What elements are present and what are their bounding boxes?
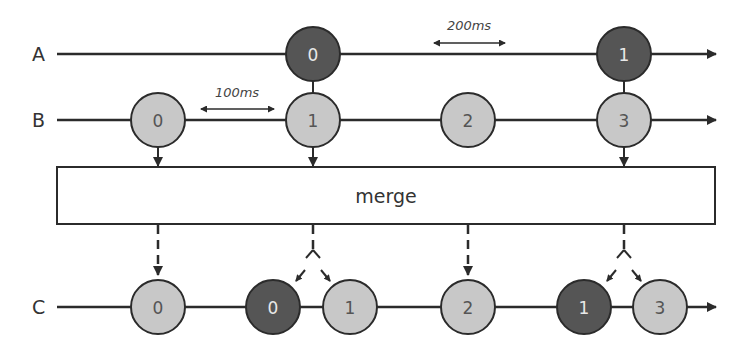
stream-b: B 0 1 2 3 [32, 93, 716, 166]
marble-b-0: 0 [131, 93, 185, 147]
merge-marble-diagram: A 0 1 200ms B 0 1 [0, 0, 749, 356]
svg-text:0: 0 [153, 111, 164, 131]
stream-c: C 0 0 1 2 1 3 [32, 280, 716, 334]
output-arrows [158, 225, 641, 281]
svg-text:1: 1 [308, 111, 319, 131]
marble-b-3: 3 [597, 93, 651, 147]
svg-text:3: 3 [655, 298, 666, 318]
svg-text:1: 1 [619, 45, 630, 65]
marble-c-2: 1 [323, 280, 377, 334]
svg-text:1: 1 [345, 298, 356, 318]
arrow-to-c-dark0 [296, 270, 305, 281]
interval-annotation-100ms: 100ms [201, 85, 274, 109]
arrow-to-c3 [632, 270, 641, 281]
operator-label: merge [355, 185, 416, 207]
split-right-624 [624, 250, 631, 258]
svg-text:0: 0 [308, 45, 319, 65]
marble-a-1: 1 [597, 27, 651, 81]
marble-c-0: 0 [131, 280, 185, 334]
operator-box: merge [57, 167, 715, 224]
svg-text:2: 2 [463, 298, 474, 318]
marble-a-0: 0 [286, 27, 340, 81]
split-right-313 [313, 250, 320, 258]
split-left-313 [306, 250, 313, 258]
split-left-624 [617, 250, 624, 258]
marble-c-1: 0 [246, 280, 300, 334]
marble-c-4: 1 [557, 280, 611, 334]
svg-text:3: 3 [619, 111, 630, 131]
marble-b-1: 1 [286, 93, 340, 147]
marble-b-2: 2 [441, 93, 495, 147]
stream-c-label: C [32, 296, 45, 318]
svg-text:0: 0 [153, 298, 164, 318]
arrow-to-c-dark1 [607, 270, 616, 281]
svg-text:2: 2 [463, 111, 474, 131]
interval-annotation-200ms: 200ms [434, 18, 505, 43]
stream-b-label: B [32, 109, 45, 131]
stream-a-label: A [32, 43, 45, 65]
svg-text:200ms: 200ms [447, 18, 491, 33]
svg-text:100ms: 100ms [215, 85, 259, 100]
svg-text:1: 1 [579, 298, 590, 318]
marble-c-3: 2 [441, 280, 495, 334]
marble-c-5: 3 [633, 280, 687, 334]
svg-text:0: 0 [268, 298, 279, 318]
arrow-to-c1 [321, 270, 330, 281]
